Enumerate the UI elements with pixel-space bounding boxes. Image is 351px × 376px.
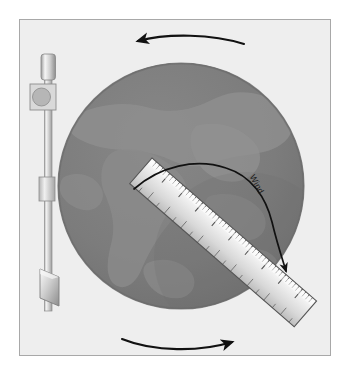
- diagram-figure: Wind: [0, 0, 351, 376]
- mid-collar: [39, 177, 55, 201]
- pivot-wheel: [33, 88, 51, 106]
- rod-top-cap: [41, 54, 56, 80]
- rotation-arrow-top: [138, 36, 244, 44]
- rotation-arrow-top-path: [138, 36, 244, 44]
- rotation-arrow-bottom-path: [122, 339, 232, 349]
- rotation-arrow-bottom: [122, 339, 232, 349]
- support-rod-assembly: [30, 54, 59, 311]
- diagram-canvas: [0, 0, 351, 376]
